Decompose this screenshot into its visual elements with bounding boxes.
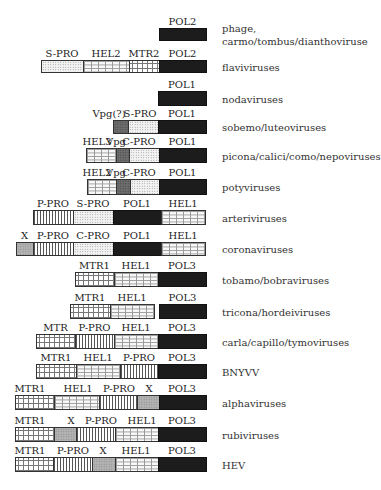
segment-s-pro bbox=[41, 60, 84, 73]
virus-group-label: potyviruses bbox=[222, 181, 280, 194]
virus-group-label: nodaviruses bbox=[222, 93, 283, 106]
segment-label: P-PRO bbox=[85, 415, 117, 426]
segment-pol1 bbox=[159, 148, 207, 163]
segment-label: HEL1 bbox=[117, 292, 146, 303]
virus-group-label: coronaviruses bbox=[222, 243, 293, 256]
segment-label: MTR1 bbox=[41, 352, 72, 363]
segment-label: POL3 bbox=[168, 415, 196, 426]
segment-label: C-PRO bbox=[122, 136, 156, 147]
segment-p-pro bbox=[53, 457, 93, 472]
segment-mtr1 bbox=[15, 395, 55, 410]
segment-mtr1 bbox=[15, 457, 54, 472]
virus-group-label: sobemo/luteoviruses bbox=[222, 121, 326, 134]
segment-label: P-PRO bbox=[37, 230, 69, 241]
segment-label: P-PRO bbox=[78, 322, 110, 333]
segment-label: MTR1 bbox=[15, 445, 46, 456]
segment-label: POL3 bbox=[168, 352, 196, 363]
segment-p-pro bbox=[99, 395, 138, 410]
segment-label: HEL1 bbox=[83, 352, 112, 363]
segment-label: P-PRO bbox=[103, 383, 135, 394]
segment-pol1 bbox=[158, 91, 207, 106]
segment-label: HEL1 bbox=[121, 322, 150, 333]
segment-label: POL3 bbox=[168, 383, 196, 394]
segment-label: HEL1 bbox=[121, 260, 150, 271]
segment-p-pro bbox=[120, 364, 159, 379]
segment-label: POL2 bbox=[169, 48, 197, 59]
segment-hel2 bbox=[87, 179, 117, 195]
segment-hel1 bbox=[114, 334, 159, 349]
segment-label: POL3 bbox=[168, 322, 196, 333]
segment-label: MTR2 bbox=[129, 48, 160, 59]
segment-label: MTR1 bbox=[79, 260, 110, 271]
segment-label: MTR1 bbox=[15, 383, 46, 394]
segment-pol3 bbox=[158, 457, 207, 472]
segment-label: MTR1 bbox=[15, 415, 46, 426]
segment-hel1 bbox=[115, 427, 159, 442]
segment-hel2 bbox=[83, 60, 130, 73]
segment-label: HEL1 bbox=[121, 445, 150, 456]
segment-label: POL1 bbox=[123, 230, 151, 241]
segment-x bbox=[137, 395, 160, 410]
segment-pol2 bbox=[159, 60, 207, 73]
segment-mtr bbox=[36, 334, 76, 349]
segment-pol1 bbox=[159, 179, 207, 195]
virus-group-label: carla/capillo/tymoviruses bbox=[222, 336, 349, 349]
virus-group-label: picona/calici/como/nepoviruses bbox=[222, 150, 381, 163]
segment-p-pro bbox=[76, 427, 116, 442]
virus-group-label: arteriviruses bbox=[222, 212, 287, 225]
segment-hel1 bbox=[110, 304, 155, 319]
segment-label: POL1 bbox=[168, 79, 196, 90]
segment-hel1 bbox=[114, 272, 159, 287]
segment-p-pro bbox=[75, 334, 115, 349]
segment-pol1 bbox=[158, 120, 207, 134]
segment-pol3 bbox=[159, 304, 207, 319]
segment-label: X bbox=[145, 383, 152, 394]
segment-vpg bbox=[116, 148, 130, 163]
segment-label: HEL1 bbox=[168, 230, 197, 241]
segment-label: S-PRO bbox=[45, 48, 78, 59]
segment-pol3 bbox=[158, 427, 207, 442]
virus-group-label: tricona/hordeiviruses bbox=[222, 306, 330, 319]
segment-label: POL1 bbox=[168, 108, 196, 119]
segment-label: POL3 bbox=[169, 292, 197, 303]
segment-label: P-PRO bbox=[123, 352, 155, 363]
segment-label: POL2 bbox=[169, 16, 197, 27]
segment-mtr1 bbox=[70, 304, 111, 319]
segment-label: X bbox=[99, 445, 106, 456]
segment-p-pro bbox=[33, 210, 74, 225]
segment-pol1 bbox=[113, 210, 162, 225]
segment-hel3 bbox=[86, 148, 117, 163]
segment-x bbox=[54, 427, 77, 442]
virus-group-label: phage, bbox=[222, 22, 256, 35]
segment-hel1 bbox=[161, 242, 206, 256]
segment-vpg bbox=[116, 179, 131, 195]
segment-s-pro bbox=[128, 120, 159, 134]
segment-label: POL3 bbox=[168, 445, 196, 456]
segment-label: HEL1 bbox=[63, 383, 92, 394]
virus-group-label: BNYVV bbox=[222, 366, 259, 379]
segment-mtr1 bbox=[15, 427, 55, 442]
virus-group-label: flaviviruses bbox=[222, 61, 280, 74]
segment-label: HEL2 bbox=[91, 48, 120, 59]
segment-label: C-PRO bbox=[76, 230, 110, 241]
virus-group-label: tobamo/bobraviruses bbox=[222, 274, 329, 287]
segment-s-pro bbox=[73, 210, 114, 225]
segment-label: X bbox=[67, 415, 74, 426]
segment-hel1 bbox=[115, 457, 159, 472]
segment-mtr1 bbox=[36, 364, 77, 379]
segment-label: MTR1 bbox=[75, 292, 106, 303]
virus-group-label: HEV bbox=[222, 459, 245, 472]
segment-pol3 bbox=[159, 395, 207, 410]
segment-label: POL1 bbox=[169, 167, 197, 178]
segment-pol2 bbox=[159, 28, 207, 41]
segment-c-pro bbox=[130, 179, 160, 195]
segment-mtr2 bbox=[129, 60, 160, 73]
segment-label: HEL1 bbox=[168, 198, 197, 209]
segment-label: C-PRO bbox=[122, 167, 156, 178]
segment-label: POL3 bbox=[168, 260, 196, 271]
segment-label: S-PRO bbox=[123, 108, 156, 119]
segment-label: MTR bbox=[43, 322, 67, 333]
segment-label: S-PRO bbox=[76, 198, 109, 209]
segment-hel1 bbox=[54, 395, 100, 410]
segment-label: POL1 bbox=[169, 136, 197, 147]
